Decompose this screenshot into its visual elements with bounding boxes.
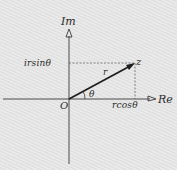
complex-plane-diagram [0,0,177,170]
modulus-vector-arrow-icon [126,63,135,70]
angle-theta-label: θ [89,90,94,99]
imaginary-axis-label: Im [61,16,76,27]
imaginary-axis-arrow-icon [66,29,72,37]
origin-label: O [60,101,68,111]
real-component-label: rcosθ [112,101,138,110]
modulus-vector [69,65,132,99]
point-z-label: z [136,57,141,67]
imaginary-component-label: irsinθ [24,59,51,68]
real-axis-arrow-icon [148,96,156,101]
angle-arc [83,91,85,99]
real-axis-label: Re [158,94,173,105]
modulus-label: r [103,68,107,77]
